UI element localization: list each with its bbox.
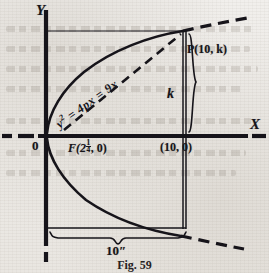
- parabola-lower-extension-dashed: [181, 236, 244, 249]
- focus-label-prefix: F(2: [68, 141, 86, 155]
- focus-point-label: F(214, 0): [68, 140, 107, 156]
- width-dimension-label: 10″: [106, 243, 126, 259]
- parabola-upper-extension-dashed: [183, 18, 247, 31]
- y-axis-label: Y: [36, 2, 45, 19]
- origin-label: 0: [32, 138, 39, 154]
- point-p-label: P(10, k): [187, 42, 227, 57]
- focus-label-suffix: , 0): [91, 141, 107, 155]
- x-axis-label: X: [250, 116, 260, 133]
- figure-caption: Fig. 59: [0, 258, 269, 273]
- foot-point-label: (10, 0): [160, 140, 192, 155]
- parabola-figure: [0, 0, 269, 273]
- k-dimension-label: k: [167, 86, 174, 102]
